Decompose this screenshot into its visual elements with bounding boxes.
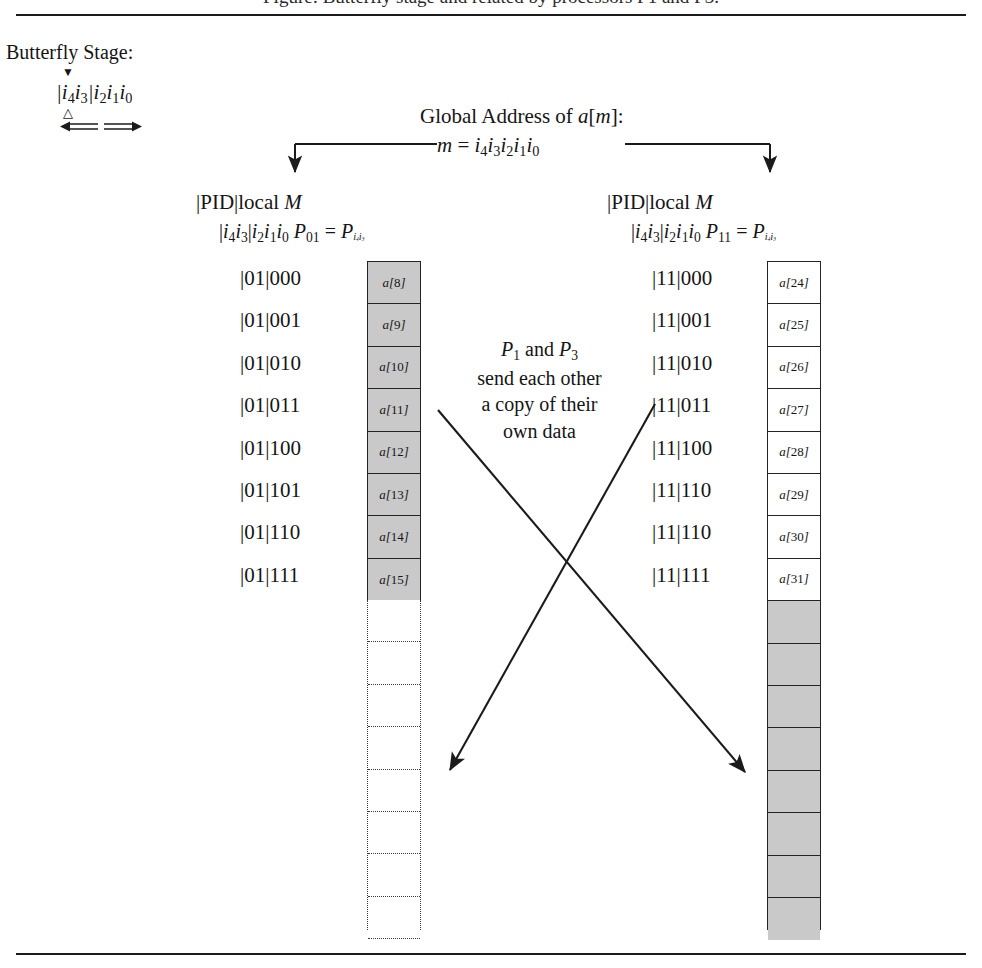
exchange-note-line-1: P1 and P3 bbox=[437, 336, 642, 365]
filled-down-triangle-icon: ▼ bbox=[62, 66, 74, 78]
right-memory-column: a[24]a[25]a[26]a[27]a[28]a[29]a[30]a[31] bbox=[767, 261, 821, 930]
memory-cell: a[8] bbox=[368, 262, 420, 304]
address-label-right: |11|001 bbox=[652, 310, 712, 331]
address-label-right: |11|010 bbox=[652, 353, 712, 374]
address-label-right: |11|000 bbox=[652, 268, 712, 289]
memory-cell: a[24] bbox=[768, 262, 820, 304]
memory-cell-empty bbox=[768, 898, 820, 940]
figure-caption: Figure: Butterfly stage and related by p… bbox=[16, 0, 966, 8]
address-label-left: |01|011 bbox=[240, 395, 300, 416]
memory-cell: a[13] bbox=[368, 474, 420, 516]
figure-caption-clip: Figure: Butterfly stage and related by p… bbox=[16, 0, 966, 11]
figure-page: Figure: Butterfly stage and related by p… bbox=[0, 0, 982, 968]
top-rule bbox=[16, 14, 966, 16]
left-memory-column: a[8]a[9]a[10]a[11]a[12]a[13]a[14]a[15] bbox=[367, 261, 421, 600]
global-address-equation: m = i4i3i2i1i0 bbox=[437, 135, 539, 158]
exchange-note-line-4: own data bbox=[437, 418, 642, 444]
bottom-rule bbox=[16, 953, 966, 955]
address-label-left: |01|010 bbox=[240, 353, 301, 374]
memory-cell-empty bbox=[768, 601, 820, 643]
memory-cell: a[14] bbox=[368, 516, 420, 558]
memory-cell: a[25] bbox=[768, 304, 820, 346]
butterfly-stage-label: Butterfly Stage: bbox=[6, 42, 133, 62]
memory-cell: a[15] bbox=[368, 559, 420, 601]
memory-cell: a[10] bbox=[368, 347, 420, 389]
memory-cell: a[26] bbox=[768, 347, 820, 389]
address-label-right: |11|110 bbox=[652, 522, 711, 543]
memory-cell-empty bbox=[768, 813, 820, 855]
left-memory-column-empty bbox=[367, 600, 421, 930]
memory-cell-empty bbox=[768, 686, 820, 728]
memory-cell-empty bbox=[368, 770, 420, 812]
address-label-left: |01|111 bbox=[240, 565, 299, 586]
memory-cell-empty bbox=[768, 771, 820, 813]
address-label-left: |01|001 bbox=[240, 310, 301, 331]
memory-cell-empty bbox=[368, 854, 420, 896]
address-label-left: |01|000 bbox=[240, 268, 301, 289]
address-label-left: |01|100 bbox=[240, 438, 301, 459]
memory-cell-empty bbox=[368, 812, 420, 854]
address-label-right: |11|111 bbox=[652, 565, 711, 586]
exchange-arrow-right-to-left bbox=[450, 404, 655, 770]
left-right-double-arrow-icon bbox=[58, 118, 144, 136]
memory-cell-empty bbox=[768, 644, 820, 686]
address-label-right: |11|100 bbox=[652, 438, 712, 459]
memory-cell: a[27] bbox=[768, 389, 820, 431]
address-label-left: |01|110 bbox=[240, 522, 300, 543]
memory-cell-empty bbox=[368, 685, 420, 727]
right-column-header-bits: |i4i3|i2i1i0 P11 = Pi4i3 bbox=[631, 221, 776, 244]
memory-cell: a[29] bbox=[768, 474, 820, 516]
memory-cell: a[9] bbox=[368, 304, 420, 346]
memory-cell-empty bbox=[768, 728, 820, 770]
global-address-title: Global Address of a[m]: bbox=[420, 106, 624, 127]
right-column-header-pid: |PID|local M bbox=[607, 192, 713, 213]
left-column-header-bits: |i4i3|i2i1i0 P01 = Pi4i3 bbox=[219, 221, 364, 244]
address-label-right: |11|011 bbox=[652, 395, 711, 416]
memory-cell: a[11] bbox=[368, 389, 420, 431]
memory-cell-empty bbox=[768, 856, 820, 898]
exchange-note-line-3: a copy of their bbox=[437, 391, 642, 417]
exchange-note-line-2: send each other bbox=[437, 365, 642, 391]
memory-cell-empty bbox=[368, 897, 420, 939]
memory-cell: a[30] bbox=[768, 516, 820, 558]
memory-cell: a[28] bbox=[768, 432, 820, 474]
memory-cell-empty bbox=[368, 642, 420, 684]
memory-cell-empty bbox=[368, 727, 420, 769]
memory-cell: a[31] bbox=[768, 559, 820, 601]
exchange-note: P1 and P3 send each other a copy of thei… bbox=[437, 336, 642, 444]
left-column-header-pid: |PID|local M bbox=[196, 192, 302, 213]
address-label-left: |01|101 bbox=[240, 480, 301, 501]
memory-cell: a[12] bbox=[368, 432, 420, 474]
address-label-right: |11|110 bbox=[652, 480, 711, 501]
exchange-arrow-left-to-right bbox=[438, 410, 745, 772]
butterfly-bits-label: |i4i3|i2i1i0 bbox=[56, 82, 132, 105]
memory-cell-empty bbox=[368, 600, 420, 642]
